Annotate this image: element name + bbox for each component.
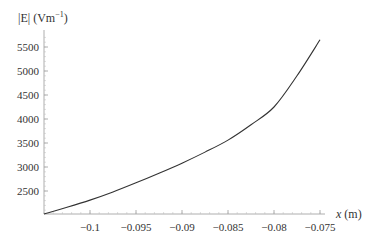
x-axis: −0.1−0.095−0.09−0.085−0.08−0.075 [44, 210, 336, 233]
y-tick-label: 5000 [17, 65, 40, 77]
y-tick-label: 3500 [17, 137, 40, 149]
x-axis-label: x (m) [335, 207, 362, 221]
x-tick-label: −0.095 [121, 221, 152, 233]
y-tick-label: 4500 [17, 89, 40, 101]
x-tick-label: −0.085 [213, 221, 244, 233]
y-tick-label: 5500 [17, 41, 40, 53]
y-tick-label: 2500 [17, 185, 40, 197]
y-axis-label: |E| (Vm−1) [18, 10, 68, 25]
y-axis: 2500300035004000450050005500 [17, 30, 48, 214]
y-tick-label: 3000 [17, 161, 40, 173]
x-tick-label: −0.08 [261, 221, 287, 233]
line-chart: 2500300035004000450050005500 −0.1−0.095−… [0, 0, 374, 247]
x-tick-label: −0.075 [305, 221, 336, 233]
x-tick-label: −0.1 [80, 221, 100, 233]
x-tick-label: −0.09 [169, 221, 195, 233]
y-tick-label: 4000 [17, 113, 40, 125]
data-line [44, 40, 320, 214]
